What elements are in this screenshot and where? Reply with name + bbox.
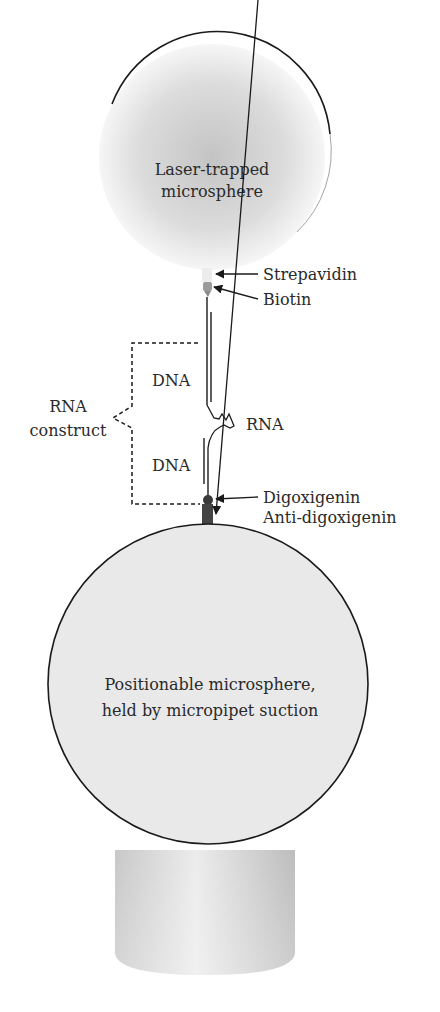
- bottom-sphere-label-1: Positionable microsphere,: [105, 675, 316, 694]
- bottom-sphere-label-2: held by micropipet suction: [102, 701, 319, 720]
- rna-construct-label-2: construct: [30, 421, 107, 440]
- upper-dna-label: DNA: [152, 371, 191, 390]
- lower-dna-label: DNA: [152, 456, 191, 475]
- rna-optical-tweezers-diagram: Laser-trapped microsphere Positionable m…: [0, 0, 440, 1012]
- rna-construct-label-1: RNA: [49, 397, 87, 416]
- rna-construct-brace: [113, 343, 200, 504]
- strepavidin-label: Strepavidin: [263, 265, 357, 284]
- anti-digoxigenin-post: [202, 504, 213, 524]
- biotin-label: Biotin: [263, 290, 311, 309]
- digoxigenin-bead: [203, 495, 213, 505]
- digoxigenin-arrow: [216, 497, 258, 499]
- lower-dna-duplex: [204, 438, 208, 497]
- top-sphere-label-1: Laser-trapped: [155, 160, 270, 179]
- laser-trapped-microsphere: Laser-trapped microsphere: [99, 32, 331, 270]
- upper-dna-duplex: [207, 297, 211, 405]
- micropipet: [115, 850, 295, 975]
- top-sphere-label-2: microsphere: [161, 182, 263, 201]
- biotin-arrow: [214, 287, 258, 299]
- positionable-microsphere: Positionable microsphere, held by microp…: [48, 524, 368, 844]
- digoxigenin-label: Digoxigenin: [263, 488, 360, 507]
- biotin-bead: [203, 282, 212, 291]
- strepavidin-stub: [202, 268, 212, 282]
- rna-label: RNA: [246, 415, 284, 434]
- anti-digoxigenin-label: Anti-digoxigenin: [262, 508, 397, 527]
